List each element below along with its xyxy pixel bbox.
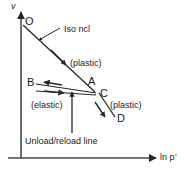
iso-compression-diagram: v ln p' O B A C D Iso ncl (plastic) (ela…	[0, 0, 184, 177]
iso-ncl-leader	[39, 28, 60, 40]
point-label-d: D	[117, 113, 125, 124]
elastic-label: (elastic)	[31, 101, 63, 110]
plastic-label-lower: (plastic)	[110, 101, 142, 110]
plastic-arrow-lower	[95, 102, 105, 117]
point-label-b: B	[27, 77, 34, 88]
x-axis-label-text: ln p	[160, 152, 175, 162]
point-label-o: O	[25, 16, 34, 27]
x-axis-label-prime: '	[175, 152, 177, 162]
unload-reload-line-label: Unload/reload line	[25, 137, 98, 146]
x-axis-label: ln p'	[160, 153, 176, 162]
iso-ncl-label: Iso ncl	[64, 25, 90, 34]
y-axis-label: v	[11, 2, 16, 11]
point-label-a: A	[88, 76, 95, 87]
plastic-arrow-upper	[51, 50, 66, 65]
plastic-label-upper: (plastic)	[70, 59, 102, 68]
point-label-c: C	[100, 88, 108, 99]
